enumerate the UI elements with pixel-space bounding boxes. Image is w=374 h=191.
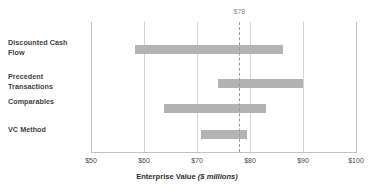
x-axis-title: Enterprise Value ($ millions) (0, 172, 374, 181)
category-label-line: Comparables (8, 97, 88, 107)
x-axis-title-unit: ($ millions) (198, 172, 238, 181)
x-axis-line (91, 152, 357, 153)
plot-area (91, 22, 356, 152)
xtick-label-60: $60 (138, 157, 150, 164)
category-label-line: Transactions (8, 82, 88, 92)
gridline-100 (356, 22, 357, 152)
xtick-label-50: $50 (85, 157, 97, 164)
xtick-label-100: $100 (348, 157, 364, 164)
category-label-line: Flow (8, 48, 88, 58)
gridline-90 (303, 22, 304, 152)
category-label-precedent-transactions: Precedent Transactions (8, 72, 88, 92)
gridline-60 (144, 22, 145, 152)
range-bar-precedent-transactions (218, 79, 303, 88)
range-bar-discounted-cash-flow (135, 45, 283, 54)
category-label-comparables: Comparables (8, 97, 88, 107)
category-label-line: Precedent (8, 72, 88, 82)
gridline-50 (91, 22, 92, 152)
xtick-label-70: $70 (191, 157, 203, 164)
xtick-label-80: $80 (244, 157, 256, 164)
category-label-line: Discounted Cash (8, 38, 88, 48)
x-axis-title-main: Enterprise Value (136, 172, 196, 181)
category-label-line: VC Method (8, 125, 88, 135)
xtick-label-90: $90 (297, 157, 309, 164)
reference-line-label: $78 (234, 8, 246, 15)
range-bar-comparables (164, 104, 266, 113)
category-label-discounted-cash-flow: Discounted Cash Flow (8, 38, 88, 58)
category-label-vc-method: VC Method (8, 125, 88, 135)
football-field-chart: Discounted Cash Flow Precedent Transacti… (0, 0, 374, 191)
reference-line-78 (239, 22, 240, 152)
gridline-70 (197, 22, 198, 152)
